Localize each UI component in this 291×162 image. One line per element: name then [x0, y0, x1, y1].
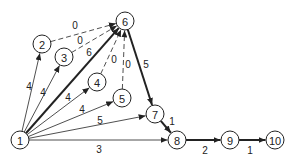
edge-layer [22, 24, 265, 140]
node-8: 8 [168, 131, 186, 149]
node-3: 3 [55, 48, 73, 66]
edge-label-8-9: 2 [202, 145, 208, 156]
node-label: 2 [39, 39, 45, 51]
node-10: 10 [266, 131, 284, 149]
edge-label-9-10: 1 [247, 145, 253, 156]
node-1: 1 [11, 131, 29, 149]
edge-label-1-4: 4 [65, 92, 71, 103]
node-9: 9 [221, 131, 239, 149]
network-diagram: 446445300005121 12345678910 [0, 0, 291, 162]
node-label: 9 [227, 135, 233, 147]
node-label: 6 [122, 16, 128, 28]
node-7: 7 [146, 105, 164, 123]
node-2: 2 [33, 35, 51, 53]
edge-label-6-7: 5 [143, 59, 149, 70]
node-label: 8 [174, 135, 180, 147]
edge-label-2-6: 0 [72, 20, 78, 31]
edge-label-1-3: 4 [40, 87, 46, 98]
edge-label-layer: 446445300005121 [26, 20, 253, 156]
node-label: 1 [17, 135, 23, 147]
edge-label-1-6: 6 [86, 47, 92, 58]
node-4: 4 [88, 73, 106, 91]
edge-2-6 [51, 24, 116, 42]
node-label: 5 [119, 93, 125, 105]
edge-label-1-5: 4 [79, 104, 85, 115]
node-6: 6 [116, 12, 134, 30]
node-label: 3 [61, 52, 67, 64]
edge-label-7-8: 1 [169, 116, 175, 127]
node-label: 10 [269, 135, 281, 147]
edge-1-7 [29, 116, 146, 139]
edge-label-5-6: 0 [125, 59, 131, 70]
edge-label-1-7: 5 [97, 115, 103, 126]
node-label: 7 [152, 109, 158, 121]
edge-label-4-6: 0 [111, 54, 117, 65]
node-label: 4 [94, 77, 100, 89]
edge-label-1-8: 3 [96, 144, 102, 155]
edge-label-1-2: 4 [26, 81, 32, 92]
edge-label-3-6: 0 [77, 35, 83, 46]
node-5: 5 [113, 89, 131, 107]
